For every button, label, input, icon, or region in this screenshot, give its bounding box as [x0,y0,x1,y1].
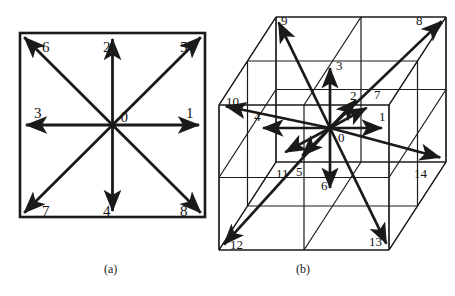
figure-canvas: 123456780 12345678910111213140 (a) (b) [0,0,455,296]
panel-b-label-6: 6 [321,178,328,193]
panel-b-label-3: 3 [336,58,343,73]
panel-b-d3q15-diagram: 12345678910111213140 [0,0,455,262]
panel-b-label-9: 9 [281,13,288,28]
panel-b-label-8: 8 [416,13,423,28]
panel-b-caption: (b) [296,262,310,277]
panel-b-label-center: 0 [338,130,345,145]
panel-b-arrow-13 [330,128,386,244]
panel-b-arrow-10 [226,106,330,128]
panel-b-label-12: 12 [230,237,243,252]
panel-b-label-14: 14 [414,166,428,181]
panel-b-label-1: 1 [379,109,386,124]
panel-a-caption: (a) [104,262,117,277]
panel-b-velocity-arrows [224,21,442,244]
panel-b-arrow-14 [330,128,440,157]
panel-b-label-10: 10 [226,94,239,109]
panel-b-label-13: 13 [369,234,382,249]
panel-b-arrow-8 [330,21,442,128]
panel-b-label-5: 5 [296,164,303,179]
panel-b-label-4: 4 [254,109,261,124]
panel-b-label-11: 11 [276,166,289,181]
panel-b-label-2: 2 [350,88,357,103]
panel-b-label-7: 7 [374,87,381,102]
